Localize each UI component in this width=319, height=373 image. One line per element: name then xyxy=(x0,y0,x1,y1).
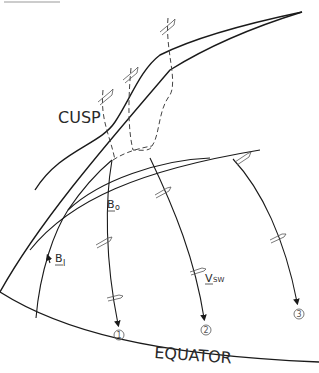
field-line-2 xyxy=(150,158,204,318)
cusp-label: CUSP xyxy=(58,108,101,127)
b-outer-subscript: o xyxy=(115,203,120,212)
svg-text:1: 1 xyxy=(117,331,122,340)
diagram-svg: CUSP EQUATOR B o B I V SW 1 2 3 xyxy=(0,0,319,373)
upper-arc-2 xyxy=(30,150,260,250)
bi-arrow-icon xyxy=(48,257,50,263)
field-line-marker-1: 1 xyxy=(114,330,124,340)
vsw-label: V xyxy=(205,272,213,285)
equator-label: EQUATOR xyxy=(154,343,233,367)
vsw-subscript: SW xyxy=(213,276,224,284)
cusp-diagram: CUSP EQUATOR B o B I V SW 1 2 3 xyxy=(0,0,319,373)
b-inner-subscript: I xyxy=(63,259,65,268)
outer-boundary-line xyxy=(0,12,302,292)
field-line-marker-2: 2 xyxy=(201,325,211,335)
svg-text:3: 3 xyxy=(297,310,302,319)
dashed-cusp-line-b xyxy=(129,68,152,150)
field-line-3 xyxy=(233,159,297,302)
b-inner-label: B xyxy=(55,252,63,265)
b-outer-label: B xyxy=(107,198,115,211)
dashed-cusp-line-c xyxy=(152,18,173,146)
field-line-marker-3: 3 xyxy=(294,309,304,319)
svg-text:2: 2 xyxy=(204,326,209,335)
